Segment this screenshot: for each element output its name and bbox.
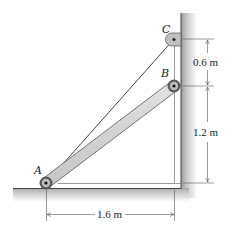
dimension-1-2m: 1.2 m	[193, 126, 219, 138]
label-c: C	[162, 23, 171, 36]
diagram-canvas: C B A 0.6 m 1.2 m 1.6 m	[0, 0, 233, 236]
pin-b	[168, 80, 181, 93]
wall	[181, 13, 197, 198]
bar-ab	[43, 82, 177, 188]
dimension-0-6m: 0.6 m	[193, 56, 219, 68]
pin-c-icon	[172, 38, 175, 41]
label-b: B	[160, 67, 169, 80]
label-a: A	[33, 164, 42, 177]
pin-a	[40, 177, 53, 190]
dimension-1-6m: 1.6 m	[97, 208, 123, 220]
floor	[13, 188, 189, 202]
